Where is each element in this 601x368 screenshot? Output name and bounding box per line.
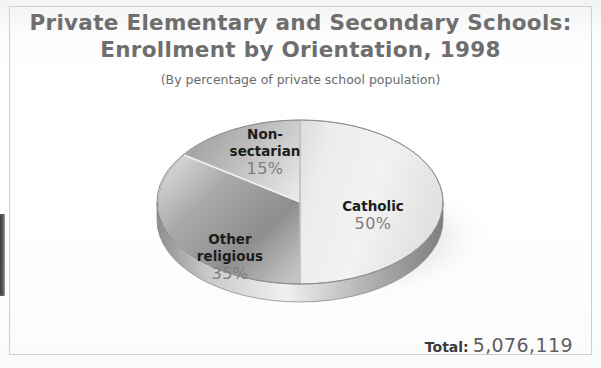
- slice-label-other-religious-name-line-1: Other: [178, 231, 282, 248]
- chart-area: Catholic 50% Non- sectarian 15% Other re…: [0, 0, 601, 368]
- slice-label-nonsectarian: Non- sectarian 15%: [215, 126, 315, 177]
- total-line: Total:5,076,119: [425, 334, 573, 356]
- slice-label-other-religious: Other religious 35%: [178, 231, 282, 282]
- chart-page: Private Elementary and Secondary Schools…: [0, 0, 601, 368]
- total-value: 5,076,119: [473, 334, 573, 356]
- slice-label-other-religious-percent: 35%: [178, 265, 282, 282]
- slice-label-nonsectarian-percent: 15%: [215, 160, 315, 177]
- slice-label-other-religious-name-line-2: religious: [178, 248, 282, 265]
- total-label: Total:: [425, 339, 469, 355]
- slice-label-catholic: Catholic 50%: [318, 198, 428, 232]
- slice-label-catholic-percent: 50%: [318, 215, 428, 232]
- slice-label-catholic-name: Catholic: [318, 198, 428, 215]
- slice-label-nonsectarian-name-line-1: Non-: [215, 126, 315, 143]
- slice-label-nonsectarian-name-line-2: sectarian: [215, 143, 315, 160]
